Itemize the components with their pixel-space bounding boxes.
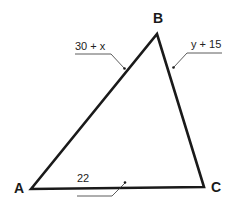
leader-dot-ac (124, 181, 127, 184)
leader-line-ab (75, 54, 124, 68)
vertex-label-c: C (211, 179, 221, 195)
side-label-ab: 30 + x (75, 40, 126, 70)
side-label-bc: y + 15 (172, 38, 222, 69)
vertex-label-a: A (14, 180, 24, 196)
triangle-abc (31, 34, 204, 189)
triangle-diagram: A B C 30 + x y + 15 22 (0, 0, 234, 219)
side-label-bc-text: y + 15 (191, 38, 221, 50)
leader-line-bc (174, 53, 222, 67)
leader-dot-ab (123, 67, 126, 70)
vertex-label-b: B (153, 10, 163, 26)
side-label-ab-text: 30 + x (75, 40, 106, 52)
side-label-ac-text: 22 (77, 172, 89, 184)
leader-dot-bc (172, 66, 175, 69)
side-label-ac: 22 (77, 172, 126, 196)
